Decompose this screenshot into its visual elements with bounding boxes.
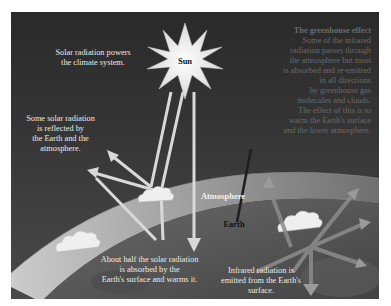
label-line: radiation passes through [267,46,371,56]
label-line: is reflected by [12,124,109,134]
label-infrared: Infrared radiation is emitted from the E… [207,266,315,296]
earth-label: Earth [216,219,252,229]
reflected-arrowheads [87,150,119,178]
incoming-solar-rays [151,92,194,192]
label-line: the atmosphere but most [267,56,371,66]
label-greenhouse-effect: The greenhouse effect Some of the infrar… [267,26,371,136]
label-line: emitted from the Earth's [207,276,315,286]
label-line: warm the Earth's surface [267,116,371,126]
label-line: by greenhouse gas [267,86,371,96]
greenhouse-heading: The greenhouse effect [267,26,371,36]
label-line: atmosphere. [12,144,109,154]
label-line: Solar radiation powers [38,48,148,58]
label-line: Earth's surface and warms it. [87,275,212,285]
label-reflected: Some solar radiation is reflected by the… [12,114,109,154]
label-line: in all directions [267,76,371,86]
label-line: the Earth and the [12,134,109,144]
label-line: About half the solar radiation [87,255,212,265]
label-solar-powers: Solar radiation powers the climate syste… [38,48,148,68]
label-line: The effect of this is to [267,106,371,116]
label-line: is absorbed by the [87,265,212,275]
label-line: the climate system. [38,58,148,68]
label-line: Some of the infrared [267,36,371,46]
label-absorbed: About half the solar radiation is absorb… [87,255,212,285]
label-line: surface. [207,286,315,296]
label-line: and the lower atmosphere. [267,126,371,136]
greenhouse-diagram: Solar radiation powers the climate syste… [11,12,379,299]
sun-label: Sun [165,56,205,66]
label-line: molecules and clouds. [267,96,371,106]
atmosphere-label: Atmosphere [191,191,255,201]
label-line: is absorbed and re-emitted [267,66,371,76]
cloud-icon-middle [138,186,174,202]
label-line: Some solar radiation [12,114,109,124]
label-line: Infrared radiation is [207,266,315,276]
